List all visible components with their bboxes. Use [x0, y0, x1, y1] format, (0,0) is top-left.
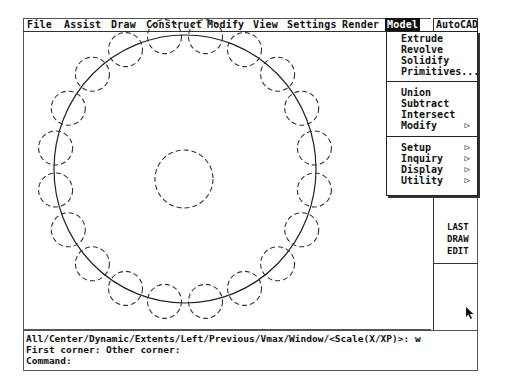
menu-settings[interactable]: Settings [287, 18, 337, 31]
model-dropdown-menu: Extrude Revolve Solidify Primitives... U… [386, 31, 478, 196]
submenu-arrow-icon: ▷ [465, 142, 470, 153]
menu-item-subtract[interactable]: Subtract [401, 98, 473, 109]
submenu-arrow-icon: ▷ [465, 175, 470, 186]
command-line-area[interactable]: All/Center/Dynamic/Extents/Left/Previous… [23, 330, 478, 371]
menu-item-extrude[interactable]: Extrude [401, 33, 473, 44]
drawing-area-frame [23, 18, 431, 330]
mouse-pointer-icon [465, 306, 475, 320]
submenu-arrow-icon: ▷ [465, 164, 470, 175]
menu-assist[interactable]: Assist [64, 18, 101, 31]
menu-item-revolve[interactable]: Revolve [401, 44, 473, 55]
menu-draw[interactable]: Draw [111, 18, 136, 31]
autocad-screen-menu-title[interactable]: AutoCAD [433, 18, 478, 32]
menu-item-inquiry[interactable]: Inquiry▷ [401, 153, 473, 164]
command-history-line: First corner: Other corner: [26, 344, 477, 355]
menu-view[interactable]: View [253, 18, 278, 31]
menu-model[interactable]: Model [385, 18, 420, 31]
menu-item-display[interactable]: Display▷ [401, 164, 473, 175]
menu-separator [387, 81, 477, 82]
menu-item-utility[interactable]: Utility▷ [401, 175, 473, 186]
menu-item-union[interactable]: Union [401, 87, 473, 98]
command-prompt[interactable]: Command: [26, 355, 477, 366]
command-history-line: All/Center/Dynamic/Extents/Left/Previous… [26, 333, 477, 344]
menu-construct[interactable]: Construct [146, 18, 202, 31]
submenu-arrow-icon: ▷ [465, 153, 470, 164]
submenu-arrow-icon: ▷ [465, 120, 470, 131]
menu-item-solidify[interactable]: Solidify [401, 55, 473, 66]
menu-item-intersect[interactable]: Intersect [401, 109, 473, 120]
menu-bar: File Assist Draw Construct Modify View S… [23, 18, 478, 32]
menu-separator [387, 136, 477, 137]
menu-item-primitives[interactable]: Primitives... [401, 66, 473, 77]
menu-render[interactable]: Render [342, 18, 379, 31]
menu-modify[interactable]: Modify [207, 18, 244, 31]
menu-item-setup[interactable]: Setup▷ [401, 142, 473, 153]
menu-item-modify[interactable]: Modify▷ [401, 120, 473, 131]
menu-file[interactable]: File [27, 18, 52, 31]
screen-menu-divider [434, 263, 478, 264]
